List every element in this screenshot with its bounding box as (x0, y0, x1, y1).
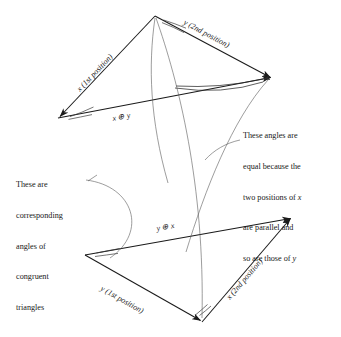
annotation-right-line-3: two positions of x (243, 193, 301, 203)
connector-curve-apex-sweep (151, 18, 168, 183)
vector-y-second-arrow (155, 16, 271, 78)
label-x-first-position: x (1st position) (74, 52, 114, 94)
annotation-right-line-5: so are those of y (243, 254, 301, 264)
annotation-left-line-1: These are (16, 180, 63, 190)
annotation-right-line-3-text: two positions of (243, 193, 298, 202)
angle-arc-bottom-vertex (196, 305, 208, 315)
annotation-right-line-5-text: so are those of (243, 254, 293, 263)
label-y-plus-x: y ⊕ x (155, 221, 176, 233)
annotation-corresponding-angles: These are corresponding angles of congru… (16, 160, 63, 323)
annotation-right-var-x: x (298, 193, 302, 202)
annotation-right-line-4: are parallel and (243, 223, 301, 233)
leader-line-left (88, 175, 97, 181)
annotation-right-line-1: These angles are (243, 131, 301, 141)
annotation-equal-angles: These angles are equal because the two p… (243, 111, 301, 274)
annotation-left-line-4: congruent (16, 272, 63, 282)
annotation-left-line-5: triangles (16, 303, 63, 313)
pointer-arc-left (86, 180, 132, 258)
angle-arc-top-apex-2 (162, 23, 184, 33)
vector-x-first-position (60, 16, 155, 117)
annotation-left-line-2: corresponding (16, 211, 63, 221)
connector-curve-apex-to-bottom (156, 18, 202, 318)
label-x-plus-y: x ⊕ y (111, 111, 132, 124)
vector-x-first-arrow (60, 16, 155, 117)
vector-y-second-position (155, 16, 271, 78)
annotation-left-line-3: angles of (16, 242, 63, 252)
annotation-right-line-2: equal because the (243, 162, 301, 172)
angle-arc-bottom-left (97, 249, 120, 253)
annotation-right-var-y: y (293, 254, 297, 263)
label-y-first-position: y (1st position) (98, 283, 145, 315)
leader-line-right (205, 140, 240, 160)
